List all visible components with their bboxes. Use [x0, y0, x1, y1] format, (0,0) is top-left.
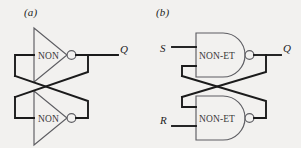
nand-bubble-top	[245, 51, 254, 60]
wire-top-inverter-input-rail	[15, 55, 34, 76]
inverter-bubble-bottom	[67, 114, 76, 123]
wire-bottom-nand-upper-input-rail	[182, 97, 196, 107]
wire-bottom-output-feedback-cross	[15, 76, 88, 118]
circuit-diagram-canvas: NON NON NON-ET NON-ET	[0, 0, 301, 148]
figure-root: (a) (b) Q S R Q NON NON	[0, 0, 301, 148]
nand-gate-top-label: NON-ET	[199, 51, 235, 61]
wire-bottom-inverter-input-rail	[15, 97, 34, 118]
inverter-gate-bottom-label: NON	[38, 114, 59, 124]
wire-top-output-feedback-cross	[15, 55, 88, 97]
wire-bottom-nand-feedback-cross	[182, 76, 266, 118]
panel-a-circuit: NON NON	[15, 28, 118, 145]
inverter-gate-top-label: NON	[38, 51, 59, 61]
nand-bubble-bottom	[245, 114, 254, 123]
wire-top-nand-lower-input-rail	[182, 66, 196, 76]
wire-top-nand-feedback-cross	[182, 55, 266, 97]
inverter-bubble-top	[67, 51, 76, 60]
nand-gate-bottom-label: NON-ET	[199, 114, 235, 124]
panel-b-circuit: NON-ET NON-ET	[172, 33, 281, 140]
